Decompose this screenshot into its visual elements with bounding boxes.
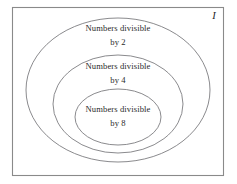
set-label-divisible-by-8-line2: by 8: [110, 118, 125, 128]
set-label-divisible-by-2-line2: by 2: [110, 37, 125, 47]
set-label-divisible-by-8-line1: Numbers divisible: [86, 104, 151, 114]
set-label-divisible-by-2-line1: Numbers divisible: [86, 23, 151, 33]
universal-set-label: I: [211, 10, 216, 21]
venn-diagram-canvas: Numbers divisible by 2 Numbers divisible…: [0, 0, 237, 184]
venn-diagram-svg: Numbers divisible by 2 Numbers divisible…: [0, 0, 237, 184]
set-label-divisible-by-4-line2: by 4: [110, 75, 126, 85]
set-label-divisible-by-4-line1: Numbers divisible: [86, 61, 151, 71]
